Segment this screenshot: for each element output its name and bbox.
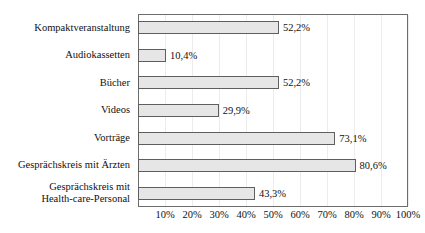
bar-value-label: 73,1% bbox=[339, 132, 366, 145]
category-label: Vorträge bbox=[94, 133, 130, 144]
category-label-line: Bücher bbox=[100, 77, 130, 88]
bar-value-label: 10,4% bbox=[170, 49, 197, 62]
x-tick-label: 50% bbox=[263, 209, 282, 221]
bar bbox=[138, 76, 279, 89]
horizontal-bar-chart: KompaktveranstaltungAudiokassettenBücher… bbox=[0, 0, 425, 233]
gridline-100pct bbox=[408, 15, 409, 206]
category-label-line: Health-care-Personal bbox=[41, 194, 130, 205]
category-label: Audiokassetten bbox=[65, 50, 130, 61]
bar bbox=[138, 49, 166, 62]
category-label: Gesprächskreis mitHealth-care-Personal bbox=[41, 182, 130, 205]
x-tick-label: 100% bbox=[396, 209, 421, 221]
bar-value-label: 29,9% bbox=[223, 104, 250, 117]
category-axis-labels: KompaktveranstaltungAudiokassettenBücher… bbox=[0, 14, 134, 207]
bar-value-label: 43,3% bbox=[259, 187, 286, 200]
x-tick-label: 80% bbox=[344, 209, 363, 221]
category-label: Kompaktveranstaltung bbox=[34, 23, 130, 34]
category-label: Gesprächskreis mit Ärzten bbox=[18, 160, 130, 171]
category-label-line: Gesprächskreis mit Ärzten bbox=[18, 159, 130, 170]
x-tick-label: 30% bbox=[209, 209, 228, 221]
x-tick-label: 20% bbox=[182, 209, 201, 221]
category-label-line: Audiokassetten bbox=[65, 49, 130, 60]
bar-value-label: 80,6% bbox=[360, 159, 387, 172]
x-tick-label: 40% bbox=[236, 209, 255, 221]
category-label-line: Kompaktveranstaltung bbox=[34, 22, 130, 33]
bar bbox=[138, 187, 255, 200]
bar bbox=[138, 132, 335, 145]
x-axis-tick-labels: 10%20%30%40%50%60%70%80%90%100% bbox=[138, 209, 408, 229]
bar bbox=[138, 159, 356, 172]
bar bbox=[138, 104, 219, 117]
category-label: Videos bbox=[101, 105, 130, 116]
category-label-line: Vorträge bbox=[94, 132, 130, 143]
x-tick-label: 90% bbox=[371, 209, 390, 221]
bar bbox=[138, 21, 279, 34]
x-tick-label: 60% bbox=[290, 209, 309, 221]
bar-value-label: 52,2% bbox=[283, 76, 310, 89]
category-label-line: Videos bbox=[101, 104, 130, 115]
x-tick-label: 10% bbox=[155, 209, 174, 221]
x-tick-label: 70% bbox=[317, 209, 336, 221]
category-label: Bücher bbox=[100, 78, 130, 89]
bar-value-label: 52,2% bbox=[283, 21, 310, 34]
bars-layer: 52,2%10,4%52,2%29,9%73,1%80,6%43,3% bbox=[138, 14, 408, 207]
category-label-line: Gesprächskreis mit bbox=[49, 181, 130, 192]
